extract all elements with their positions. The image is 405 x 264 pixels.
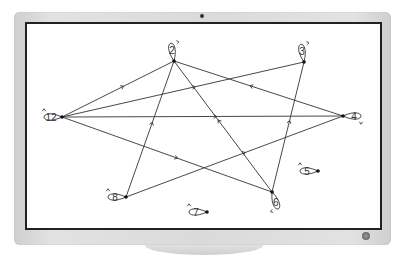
node-12 <box>60 115 64 119</box>
node-5 <box>316 169 320 173</box>
node-7 <box>205 210 209 214</box>
edge-8-to-4 <box>126 116 343 197</box>
node-2 <box>172 59 176 63</box>
node-label-8: 8 <box>112 192 118 203</box>
arrowhead-icon <box>176 41 179 44</box>
arrowhead-icon <box>359 122 362 124</box>
graph-nodes: 234567812 <box>45 45 357 218</box>
node-label-12: 12 <box>45 112 57 123</box>
graph-self-loops <box>42 41 362 216</box>
node-8 <box>124 195 128 199</box>
edge-12-to-3 <box>62 62 304 117</box>
node-label-5: 5 <box>304 166 310 177</box>
arrowhead-icon <box>106 189 109 191</box>
directed-graph: 234567812 <box>0 0 405 264</box>
node-label-2: 2 <box>169 45 175 56</box>
edge-4-to-2 <box>174 61 343 116</box>
node-label-6: 6 <box>273 197 279 208</box>
arrowhead-icon <box>306 42 309 45</box>
node-4 <box>341 114 345 118</box>
arrowhead-icon <box>187 204 190 206</box>
graph-edges <box>62 61 343 197</box>
node-3 <box>302 60 306 64</box>
arrowhead-icon <box>270 209 273 212</box>
edge-12-to-4 <box>62 116 343 117</box>
node-label-3: 3 <box>299 46 305 57</box>
node-6 <box>270 190 274 194</box>
node-label-7: 7 <box>193 207 199 218</box>
arrowhead-icon <box>298 163 301 165</box>
edge-6-to-3 <box>272 62 304 192</box>
node-label-4: 4 <box>351 111 357 122</box>
